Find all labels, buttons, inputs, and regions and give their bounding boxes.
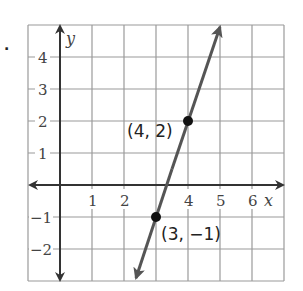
point-4-2 [183, 116, 193, 126]
x-axis-label: x [264, 191, 273, 210]
svg-text:5: 5 [216, 192, 226, 210]
svg-text:1: 1 [88, 192, 98, 210]
tick-label-mask [29, 46, 258, 258]
y-axis-label: y [65, 29, 76, 48]
svg-text:6: 6 [248, 192, 258, 210]
problem-marker: . [4, 37, 9, 53]
svg-text:4: 4 [38, 49, 48, 67]
point-label-3-neg1: (3, −1) [161, 224, 221, 244]
x-tick-labels: 1 2 4 5 6 [88, 192, 258, 210]
svg-text:4: 4 [184, 192, 194, 210]
svg-text:2: 2 [38, 113, 48, 131]
coordinate-plane: . y x 4 3 2 1 [0, 0, 303, 291]
svg-text:−1: −1 [30, 209, 52, 227]
graph-line [172, 27, 220, 169]
point-3-neg1 [151, 212, 161, 222]
svg-text:−2: −2 [30, 241, 52, 259]
svg-text:2: 2 [120, 192, 130, 210]
grid [28, 25, 284, 281]
point-label-4-2: (4, 2) [127, 121, 173, 141]
svg-text:1: 1 [38, 145, 48, 163]
svg-text:3: 3 [38, 81, 48, 99]
